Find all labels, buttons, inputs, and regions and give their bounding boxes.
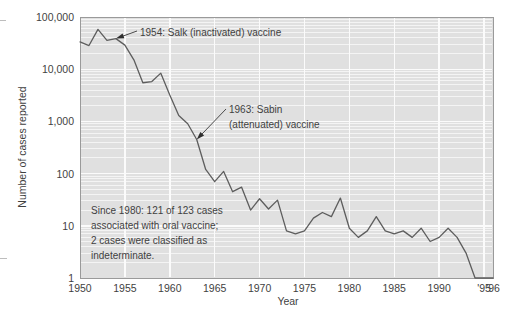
- y-tick-label-100000: 100,000: [36, 11, 74, 23]
- x-tick-label-1975: 1975: [293, 282, 317, 294]
- note-line-1: Since 1980: 121 of 123 cases: [91, 205, 223, 216]
- polio-cases-line-chart: 1101001,00010,000100,000 195019551960196…: [0, 0, 520, 319]
- x-tick-label-1960: 1960: [158, 282, 182, 294]
- x-tick-label-1980: 1980: [338, 282, 362, 294]
- x-axis-title: Year: [277, 295, 299, 307]
- y-tick-label-100: 100: [56, 168, 74, 180]
- note-line-4: indeterminate.: [91, 250, 154, 261]
- note-line-3: 2 cases were classified as: [91, 235, 207, 246]
- chart-figure: 1101001,00010,000100,000 195019551960196…: [0, 0, 520, 319]
- y-tick-label-10: 10: [62, 220, 74, 232]
- y-tick-label-10000: 10,000: [42, 63, 74, 75]
- x-tick-label-1950: 1950: [68, 282, 92, 294]
- x-tick-label-1970: 1970: [248, 282, 272, 294]
- y-tick-label-1000: 1,000: [48, 115, 74, 127]
- x-tick-label-1985: 1985: [383, 282, 407, 294]
- x-tick-label-1990: 1990: [427, 282, 451, 294]
- x-tick-label-1955: 1955: [113, 282, 137, 294]
- x-tick-label-1965: 1965: [203, 282, 227, 294]
- salk-annotation-label: 1954: Salk (inactivated) vaccine: [140, 27, 282, 38]
- page-edge-mark-top-left: [0, 20, 6, 21]
- sabin-annotation-label-line1: 1963: Sabin: [229, 104, 282, 115]
- note-line-2: associated with oral vaccine;: [91, 220, 218, 231]
- annotation-salk: 1954: Salk (inactivated) vaccine: [116, 27, 282, 39]
- page-edge-mark-bottom-left: [0, 258, 7, 259]
- sabin-annotation-label-line2: (attenuated) vaccine: [229, 119, 320, 130]
- y-axis-title: Number of cases reported: [16, 86, 28, 208]
- x-tick-label-96: '96: [486, 282, 500, 294]
